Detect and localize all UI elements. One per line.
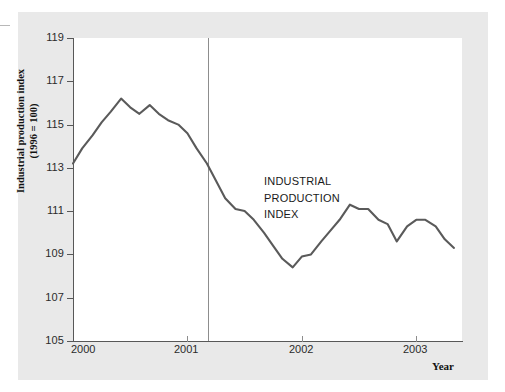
y-tick-label-111: 111	[47, 204, 64, 216]
x-tick-label-2001: 2001	[174, 343, 198, 355]
annotation-line-1: INDUSTRIAL	[264, 175, 331, 187]
annotation-line-2: PRODUCTION	[264, 192, 340, 204]
y-tick-107	[67, 298, 74, 299]
y-tick-105	[67, 341, 74, 342]
y-tick-label-115: 115	[46, 118, 64, 130]
y-tick-117	[67, 81, 74, 82]
y-axis-title-line2: (1996 = 100)	[28, 104, 39, 159]
y-tick-label-113: 113	[46, 161, 64, 173]
y-axis-title-line1: Industrial production index	[15, 69, 26, 193]
y-tick-111	[67, 211, 74, 212]
y-tick-label-107: 107	[45, 291, 64, 303]
y-tick-label-109: 109	[45, 247, 64, 259]
x-tick-label-2000: 2000	[71, 343, 95, 355]
x-axis-title: Year	[432, 360, 454, 372]
y-tick-label-119: 119	[46, 31, 64, 43]
page-edge-mark	[0, 25, 10, 26]
y-tick-115	[67, 125, 74, 126]
y-tick-label-117: 117	[46, 74, 64, 86]
x-tick-2001	[187, 336, 188, 342]
y-tick-109	[67, 254, 74, 255]
vertical-marker-line	[208, 38, 209, 341]
series-annotation-label: INDUSTRIAL PRODUCTION INDEX	[264, 173, 340, 223]
y-tick-119	[67, 38, 74, 39]
x-axis-line	[73, 341, 463, 342]
y-tick-label-105: 105	[45, 334, 64, 346]
chart-figure: 105107109111113115117119 200020012002200…	[0, 0, 505, 392]
annotation-line-3: INDEX	[264, 208, 299, 220]
y-tick-113	[67, 168, 74, 169]
y-axis-title: Industrial production index (1996 = 100)	[14, 41, 40, 221]
x-tick-label-2003: 2003	[403, 343, 427, 355]
y-axis-line	[73, 38, 74, 342]
x-tick-2002	[302, 336, 303, 342]
x-tick-label-2002: 2002	[289, 343, 313, 355]
x-tick-2003	[416, 336, 417, 342]
